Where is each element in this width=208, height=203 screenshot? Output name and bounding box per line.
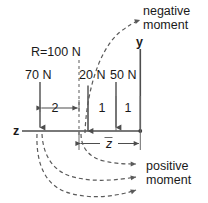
- zbar-label-group: z: [105, 137, 113, 151]
- dimension-label-1b: 1: [125, 101, 132, 115]
- dimension-label-2: 2: [52, 101, 59, 115]
- force-diagram-figure: R=100 N 70 N 20 N 50 N 2 1 1 z z y negat…: [0, 0, 208, 203]
- y-axis-label: y: [136, 35, 143, 49]
- resultant-label: R=100 N: [31, 45, 81, 59]
- force-label-20n: 20 N: [79, 68, 105, 82]
- dimension-label-1a: 1: [99, 101, 106, 115]
- dimension-2-group: [40, 100, 79, 112]
- dimension-1-ticks-group: [88, 96, 140, 131]
- positive-moment-label-line2: moment: [146, 173, 192, 187]
- force-diagram-svg: R=100 N 70 N 20 N 50 N 2 1 1 z z y negat…: [0, 0, 208, 203]
- force-label-50n: 50 N: [110, 68, 136, 82]
- positive-moment-label-line1: positive: [146, 159, 188, 173]
- negative-moment-label-line1: negative: [143, 4, 190, 18]
- zbar-label: z: [105, 137, 113, 151]
- negative-moment-label-line2: moment: [143, 18, 189, 32]
- positive-moment-curve-middle: [42, 134, 136, 180]
- force-label-70n: 70 N: [25, 68, 51, 82]
- z-axis-label: z: [13, 124, 19, 138]
